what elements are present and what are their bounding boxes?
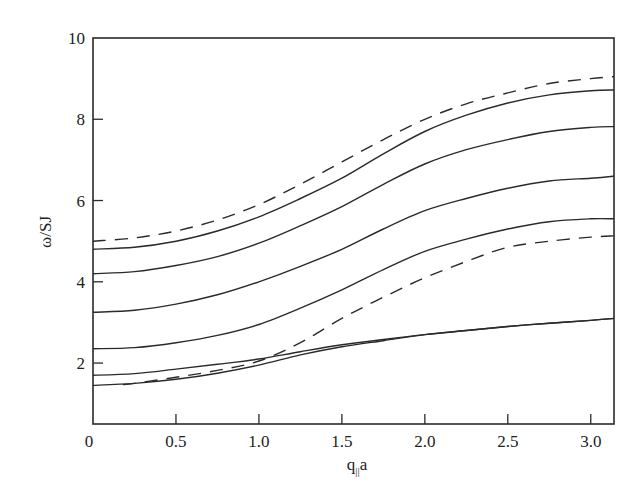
curve-surface-mode-1	[93, 90, 614, 249]
x-tick-label: 3.0	[580, 432, 601, 451]
y-tick-label: 10	[68, 29, 85, 48]
x-tick-label: 2.0	[414, 432, 435, 451]
x-tick-label: 2.5	[497, 432, 518, 451]
x-axis-label-tail: a	[360, 455, 368, 474]
x-axis-label: q||a	[347, 455, 368, 477]
y-tick-label: 4	[77, 273, 86, 292]
x-tick-label: 1.5	[331, 432, 352, 451]
y-tick-label: 8	[77, 110, 86, 129]
curve-surface-mode-3	[93, 176, 614, 312]
x-tick-label: 1.0	[248, 432, 269, 451]
y-axis-ticks: 246810	[68, 29, 103, 373]
plot-frame	[93, 38, 614, 424]
curves-layer	[93, 77, 614, 386]
curve-lower-bulk-band-edge	[123, 236, 614, 385]
curve-upper-bulk-band-edge	[93, 77, 614, 242]
curve-surface-mode-6	[93, 318, 614, 385]
curve-surface-mode-5	[93, 318, 614, 375]
x-tick-label: 0.5	[165, 432, 186, 451]
curve-surface-mode-2	[93, 127, 614, 274]
dispersion-chart: 00.51.01.52.02.53.0 246810 ω/SJ q||a	[0, 0, 640, 502]
y-tick-label: 2	[77, 354, 86, 373]
x-axis-ticks: 00.51.01.52.02.53.0	[85, 414, 602, 451]
x-tick-label: 0	[85, 432, 94, 451]
curve-surface-mode-4	[93, 219, 614, 349]
y-tick-label: 6	[77, 192, 86, 211]
y-axis-label: ω/SJ	[36, 216, 55, 248]
